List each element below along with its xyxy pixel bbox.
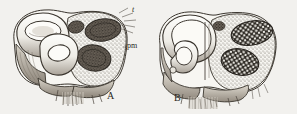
panel-b-speck-cluster [213,22,225,31]
callout-label-t: t [132,6,134,14]
panel-label-b: B [174,93,181,103]
figure-plate: t pm A B [0,0,297,114]
panel-b-tube-hook-lumen [176,47,192,65]
illustration-canvas [0,0,297,114]
callout-label-pm: pm [127,42,137,50]
panel-a-root-block [62,92,84,104]
panel-b-root-block [188,97,218,109]
panel-label-a: A [107,91,114,101]
